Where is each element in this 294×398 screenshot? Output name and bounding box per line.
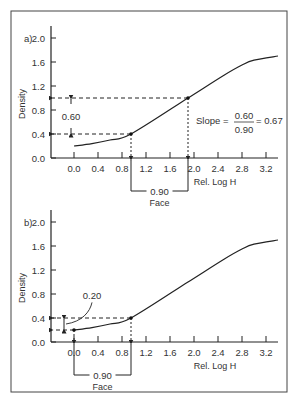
y-tick-label: 2.0 <box>32 217 45 228</box>
x-tick-label: 0.8 <box>115 347 128 358</box>
characteristic-curve <box>74 240 278 330</box>
face-label: Face <box>92 382 112 392</box>
face-label: Face <box>149 198 169 208</box>
y-tick-label: 1.6 <box>32 57 45 68</box>
marked-point <box>72 328 76 332</box>
x-tick-label: 2.8 <box>235 163 248 174</box>
slope-label: Slope = <box>196 115 229 126</box>
x-tick-label: 1.2 <box>139 347 152 358</box>
x-tick-label: 0.0 <box>67 163 80 174</box>
marked-point <box>129 132 133 136</box>
x-tick-label: 3.2 <box>259 347 272 358</box>
x-tick-label: 0.8 <box>115 163 128 174</box>
x-tick-label: 2.8 <box>235 347 248 358</box>
x-tick-label: 0.4 <box>91 163 104 174</box>
y-tick-label: 1.2 <box>32 81 45 92</box>
x-tick-label: 2.4 <box>211 347 224 358</box>
y-tick-label: 0.8 <box>32 105 45 116</box>
x-tick-label: 2.0 <box>187 163 200 174</box>
leader-line <box>66 302 92 324</box>
density-difference-label: 0.60 <box>62 111 81 122</box>
figure: 0.00.40.81.21.62.0a)0.00.40.81.21.62.02.… <box>0 0 294 398</box>
y-tick-label: 2.0 <box>32 33 45 44</box>
marked-point <box>186 96 190 100</box>
logh-difference-label: 0.90 <box>150 186 169 197</box>
y-axis-label: Density <box>17 88 27 119</box>
y-tick-label: 0.4 <box>32 129 45 140</box>
y-tick-label: 0.0 <box>32 337 45 348</box>
panel-b: 0.00.40.81.21.62.0b)0.00.40.81.21.62.02.… <box>17 210 278 392</box>
y-tick-label: 1.6 <box>32 241 45 252</box>
y-tick-label: 0.4 <box>32 313 45 324</box>
logh-difference-label: 0.90 <box>93 370 112 381</box>
y-axis-label: Density <box>17 272 27 303</box>
density-difference-label: 0.20 <box>83 290 102 301</box>
slope-result: = 0.67 <box>256 115 283 126</box>
x-tick-label: 1.6 <box>163 347 176 358</box>
y-tick-label: 0.8 <box>32 289 45 300</box>
x-tick-label: 0.4 <box>91 347 104 358</box>
y-tick-label: 1.2 <box>32 265 45 276</box>
x-tick-label: 2.4 <box>211 163 224 174</box>
slope-denominator: 0.90 <box>235 124 254 135</box>
panel-a: 0.00.40.81.21.62.0a)0.00.40.81.21.62.02.… <box>17 26 283 208</box>
x-tick-label: 1.2 <box>139 163 152 174</box>
panel-label: b) <box>24 217 32 228</box>
x-tick-label: 3.2 <box>259 163 272 174</box>
slope-numerator: 0.60 <box>235 110 254 121</box>
panel-label: a) <box>24 33 32 44</box>
x-axis-label: Rel. Log H <box>194 177 237 187</box>
x-tick-label: 2.0 <box>187 347 200 358</box>
x-tick-label: 1.6 <box>163 163 176 174</box>
marked-point <box>129 316 133 320</box>
y-tick-label: 0.0 <box>32 153 45 164</box>
x-axis-label: Rel. Log H <box>194 361 237 371</box>
